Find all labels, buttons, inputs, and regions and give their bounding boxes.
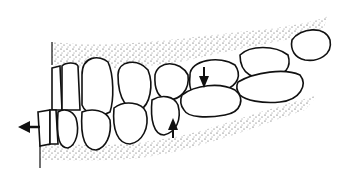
teeth-diagram bbox=[0, 0, 353, 182]
left-arrow-icon bbox=[18, 121, 40, 133]
teeth-illustration bbox=[0, 0, 353, 182]
